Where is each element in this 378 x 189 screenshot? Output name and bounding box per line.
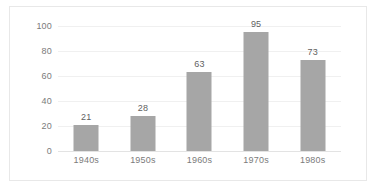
bar[interactable] [244, 32, 269, 151]
bar-slot: 73 [284, 26, 341, 151]
y-axis-tick-label: 0 [8, 147, 52, 156]
bar-value-label: 73 [307, 48, 317, 57]
bar[interactable] [74, 125, 99, 151]
bar[interactable] [300, 60, 325, 151]
y-axis-tick-label: 40 [8, 97, 52, 106]
x-axis-tick-label: 1970s [243, 156, 269, 165]
x-axis-tick-label: 1950s [130, 156, 156, 165]
x-axis: 1940s1950s1960s1970s1980s [58, 156, 341, 172]
bar-value-label: 63 [194, 60, 204, 69]
x-axis-tick-label: 1980s [300, 156, 326, 165]
chart-container: 020406080100 2128639573 1940s1950s1960s1… [9, 6, 367, 181]
bar-value-label: 21 [81, 113, 91, 122]
bar-slot: 21 [58, 26, 115, 151]
y-axis-tick-label: 60 [8, 72, 52, 81]
bar[interactable] [187, 72, 212, 151]
bar-series: 2128639573 [58, 26, 341, 151]
axis-baseline [58, 151, 341, 152]
y-axis-tick-label: 100 [8, 22, 52, 31]
bar-slot: 28 [115, 26, 172, 151]
x-axis-tick-label: 1940s [74, 156, 100, 165]
bar[interactable] [130, 116, 155, 151]
y-axis-tick-label: 80 [8, 47, 52, 56]
y-axis-tick-label: 20 [8, 122, 52, 131]
bar-value-label: 28 [138, 104, 148, 113]
bar-slot: 95 [228, 26, 285, 151]
bar-slot: 63 [171, 26, 228, 151]
bar-value-label: 95 [251, 20, 261, 29]
x-axis-tick-label: 1960s [187, 156, 213, 165]
